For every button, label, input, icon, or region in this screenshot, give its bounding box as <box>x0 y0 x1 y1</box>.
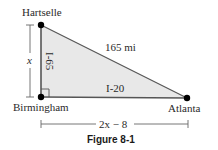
point-atlanta <box>184 95 190 101</box>
label-i20: I-20 <box>106 82 125 94</box>
label-hartselle: Hartselle <box>22 6 62 18</box>
label-165mi: 165 mi <box>105 41 136 53</box>
label-2x-minus-8: 2x − 8 <box>99 118 128 130</box>
label-atlanta: Atlanta <box>168 102 200 114</box>
label-x: x <box>26 54 32 66</box>
point-hartselle <box>38 22 44 28</box>
right-triangle-diagram: Hartselle Birmingham Atlanta 165 mi I-20… <box>0 0 218 150</box>
label-i65: I-65 <box>44 52 56 71</box>
label-birmingham: Birmingham <box>13 101 69 113</box>
figure-caption: Figure 8-1 <box>87 134 135 145</box>
point-birmingham <box>38 94 44 100</box>
edge-i20 <box>41 97 187 98</box>
